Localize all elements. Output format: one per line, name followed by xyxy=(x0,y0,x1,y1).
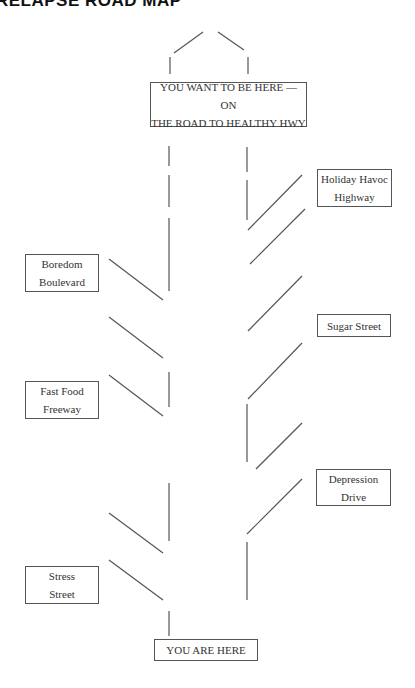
exit-label-line2: Highway xyxy=(321,188,388,206)
exit-label-line1: Depression xyxy=(329,470,379,488)
start-box: YOU ARE HERE xyxy=(154,639,258,661)
exit-label-line2: Street xyxy=(49,585,75,603)
destination-line1: YOU WANT TO BE HERE — ON xyxy=(151,78,306,114)
exit-label-line1: Fast Food xyxy=(40,382,84,400)
exit-holiday-havoc-highway: Holiday Havoc Highway xyxy=(317,169,392,207)
exit-boredom-boulevard: Boredom Boulevard xyxy=(25,254,99,292)
destination-line2: THE ROAD TO HEALTHY HWY xyxy=(151,114,306,132)
exit-fast-food-freeway: Fast Food Freeway xyxy=(25,381,99,419)
exit-label-line2: Boulevard xyxy=(39,273,85,291)
exit-label-line2: Drive xyxy=(329,488,379,506)
exit-stress-street: Stress Street xyxy=(25,566,99,604)
exit-label-line1: Boredom xyxy=(39,255,85,273)
exit-sugar-street: Sugar Street xyxy=(317,314,391,337)
exit-label-line1: Stress xyxy=(49,567,75,585)
exit-label-line1: Sugar Street xyxy=(327,317,381,335)
exit-label-line1: Holiday Havoc xyxy=(321,170,388,188)
destination-box: YOU WANT TO BE HERE — ON THE ROAD TO HEA… xyxy=(150,82,307,127)
relapse-road-map: RELAPSE ROAD MAP YOU WANT TO xyxy=(0,0,415,688)
start-label: YOU ARE HERE xyxy=(166,641,245,659)
exit-depression-drive: Depression Drive xyxy=(316,469,391,506)
exit-label-line2: Freeway xyxy=(40,400,84,418)
